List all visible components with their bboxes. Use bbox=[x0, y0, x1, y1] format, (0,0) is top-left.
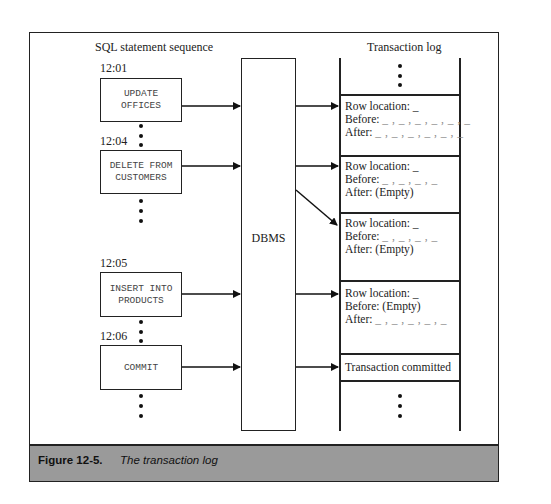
arrow-icon bbox=[296, 190, 337, 225]
arrows-layer bbox=[0, 0, 551, 504]
